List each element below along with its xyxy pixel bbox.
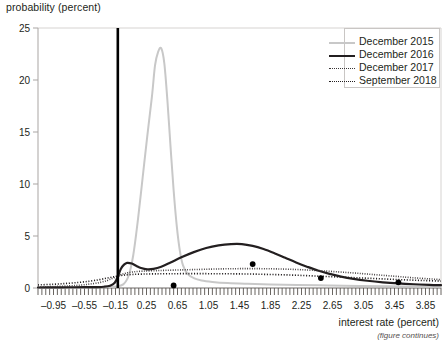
legend-label: December 2017 [359, 62, 434, 73]
legend-item[interactable]: December 2017 [329, 61, 434, 74]
x-tick-label: 1.05 [199, 300, 218, 311]
legend-label: December 2016 [359, 49, 434, 60]
data-point-marker [318, 275, 324, 281]
x-tick-label: 2.25 [292, 300, 311, 311]
data-point-marker [171, 283, 177, 289]
x-tick-label: 0.65 [168, 300, 187, 311]
y-tick-label: 0 [6, 283, 30, 294]
x-tick-label: 3.85 [416, 300, 435, 311]
legend-swatch-icon [329, 37, 355, 47]
series-line [38, 244, 441, 288]
x-tick-label: 0.25 [137, 300, 156, 311]
y-tick-label: 5 [6, 231, 30, 242]
y-tick-label: 15 [6, 127, 30, 138]
data-point-marker [395, 279, 401, 285]
x-axis-title: interest rate (percent) [339, 316, 439, 328]
legend-swatch-icon [329, 76, 355, 86]
x-tick-label: 1.45 [230, 300, 249, 311]
x-tick-label: –0.15 [103, 300, 128, 311]
x-tick-label: –0.95 [41, 300, 66, 311]
legend-item[interactable]: September 2018 [329, 74, 437, 87]
legend-item[interactable]: December 2016 [329, 48, 434, 61]
legend-swatch-icon [329, 63, 355, 73]
y-tick-label: 20 [6, 75, 30, 86]
x-tick-label: 1.85 [261, 300, 280, 311]
chart-legend: December 2015December 2016December 2017S… [344, 28, 440, 88]
legend-label: September 2018 [359, 75, 437, 86]
x-tick-label: –0.55 [72, 300, 97, 311]
x-tick-label: 3.45 [385, 300, 404, 311]
x-tick-label: 3.05 [354, 300, 373, 311]
y-tick-label: 10 [6, 179, 30, 190]
legend-item[interactable]: December 2015 [329, 35, 434, 48]
y-tick-label: 25 [6, 23, 30, 34]
legend-swatch-icon [329, 50, 355, 60]
figure-continues-note: (figure continues) [377, 331, 439, 340]
data-point-marker [250, 261, 256, 267]
legend-label: December 2015 [359, 36, 434, 47]
x-tick-label: 2.65 [323, 300, 342, 311]
